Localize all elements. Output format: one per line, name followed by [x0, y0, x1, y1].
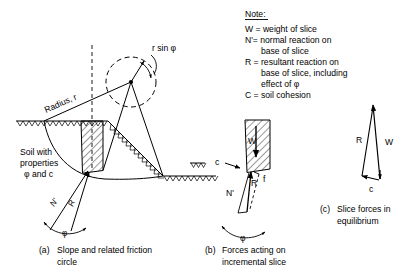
label-w-c: W: [385, 137, 394, 147]
f-tick-b: [254, 172, 259, 174]
label-soil-line2: properties: [20, 158, 58, 168]
label-radius: Radius, r: [43, 92, 79, 115]
n-prime-construction-line-b: [238, 212, 247, 213]
note-line-1: N'= normal reaction on: [245, 35, 332, 45]
panel-b-forces-on-slice: W c R N' f φ (b) Forces acting on increm…: [190, 120, 286, 267]
label-phi-b: φ: [240, 233, 246, 243]
label-r-a: R: [66, 199, 77, 208]
label-phi-a: φ: [62, 229, 67, 238]
panel-c-force-triangle: R W c (c) Slice forces in equilibrium: [320, 105, 394, 226]
label-n-prime-b: N': [226, 188, 234, 198]
force-arrow-c-b: [225, 163, 240, 168]
note-line-0: W = weight of slice: [245, 24, 317, 34]
label-r-c: R: [356, 135, 362, 145]
label-c-c: c: [369, 184, 374, 194]
force-vector-c-c: [362, 176, 379, 180]
force-vector-r-c: [362, 107, 373, 176]
note-line-3: R = resultant reaction on: [245, 57, 339, 67]
ground-hatch-bottom: [164, 176, 218, 181]
panel-c-caption-line2: equilibrium: [337, 216, 379, 226]
label-r-sin-phi: r sin φ: [152, 43, 177, 53]
label-w-b: W: [248, 136, 257, 146]
panel-b-caption-tag: (b): [205, 245, 216, 255]
label-c-b: c: [215, 157, 220, 167]
force-vector-w-c: [373, 105, 380, 179]
note-title: Note:: [245, 9, 266, 19]
label-r-b: R: [251, 178, 257, 188]
note-line-6: C = soil cohesion: [245, 90, 311, 100]
center-to-slice-base-line: [103, 82, 131, 171]
panel-a-slope-friction-circle: r sin φ Radius, r Soil with properties φ…: [16, 43, 218, 267]
panel-c-caption-tag: (c): [320, 204, 330, 214]
slope-face-hatch: [110, 124, 164, 178]
panel-a-caption-line1: Slope and related friction: [57, 245, 152, 255]
label-f-b: f: [263, 174, 266, 184]
note-line-5: effect of φ: [261, 79, 300, 89]
r-sin-phi-radius-line: [131, 61, 144, 82]
panel-a-caption-tag: (a): [39, 245, 50, 255]
panel-c-caption-line1: Slice forces in: [337, 204, 391, 214]
label-soil-line3: φ and c: [24, 169, 54, 179]
note-line-4: base of slice, including: [261, 68, 348, 78]
note-line-2: base of slice: [261, 46, 309, 56]
ground-stub-b: [190, 163, 206, 168]
panel-b-caption-line2: incremental slice: [222, 257, 286, 267]
incremental-slice-b: [245, 120, 270, 173]
panel-a-caption-line2: circle: [57, 257, 77, 267]
slope-stability-figure: r sin φ Radius, r Soil with properties φ…: [0, 0, 419, 279]
label-n-prime-a: N': [48, 197, 60, 209]
note-block: Note: W = weight of slice N'= normal rea…: [245, 9, 348, 100]
label-soil-line1: Soil with: [20, 147, 52, 157]
panel-b-caption-line1: Forces acting on: [222, 245, 286, 255]
